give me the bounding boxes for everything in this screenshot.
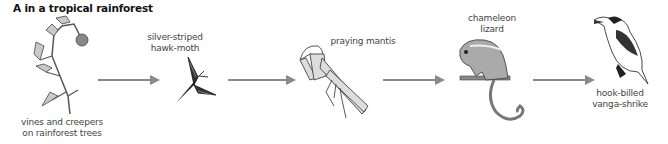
chameleon-label: chameleon lizard [462, 13, 522, 35]
arrow-mantis-to-chameleon [383, 75, 445, 85]
arrow-moth-to-mantis [228, 75, 296, 85]
vanga-shrike-illustration [590, 12, 664, 88]
vines-label: vines and creepers on rainforest trees [14, 117, 110, 139]
moth-label: silver-striped hawk-moth [140, 32, 210, 54]
vines-illustration [22, 14, 92, 118]
arrow-chameleon-to-shrike [533, 75, 595, 85]
praying-mantis-illustration [296, 40, 376, 120]
arrow-vines-to-moth [98, 75, 160, 85]
chameleon-illustration [456, 36, 530, 126]
shrike-label: hook-billed vanga-shrike [585, 88, 655, 110]
hawk-moth-illustration [168, 55, 218, 105]
diagram-title: A in a tropical rainforest [13, 2, 153, 14]
